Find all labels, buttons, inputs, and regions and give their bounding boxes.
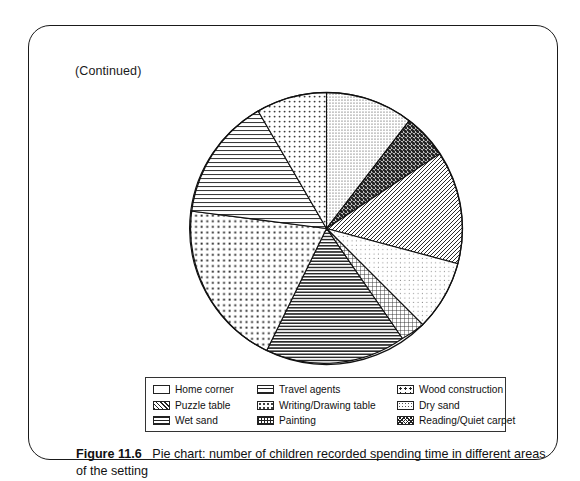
legend-swatch-wood-construction-icon bbox=[397, 385, 414, 394]
legend-label-painting: Painting bbox=[279, 415, 316, 426]
legend-swatch-travel-agents-icon bbox=[257, 385, 274, 394]
legend-label-wood-construction: Wood construction bbox=[419, 384, 503, 395]
legend-grid: Home corner Travel agents Wood construct… bbox=[153, 382, 499, 429]
legend-item-dry-sand: Dry sand bbox=[397, 400, 515, 411]
legend-item-reading-quiet-carpet: Reading/Quiet carpet bbox=[397, 415, 515, 426]
figure-caption-gap bbox=[142, 447, 153, 461]
legend-swatch-puzzle-table-icon bbox=[153, 401, 170, 410]
legend-swatch-wet-sand-icon bbox=[153, 416, 170, 425]
legend-swatch-writing-drawing-table-icon bbox=[257, 401, 274, 410]
legend-item-puzzle-table: Puzzle table bbox=[153, 400, 257, 411]
legend-item-home-corner: Home corner bbox=[153, 384, 257, 395]
pie-chart bbox=[188, 90, 465, 367]
legend-label-wet-sand: Wet sand bbox=[175, 415, 218, 426]
legend-label-writing-drawing-table: Writing/Drawing table bbox=[279, 400, 376, 411]
legend-swatch-reading-quiet-carpet-icon bbox=[397, 416, 414, 425]
legend-label-reading-quiet-carpet: Reading/Quiet carpet bbox=[419, 415, 515, 426]
chart-legend: Home corner Travel agents Wood construct… bbox=[145, 377, 506, 432]
legend-label-puzzle-table: Puzzle table bbox=[175, 400, 231, 411]
legend-label-travel-agents: Travel agents bbox=[279, 384, 340, 395]
pie-chart-svg bbox=[188, 90, 465, 367]
legend-swatch-painting-icon bbox=[257, 416, 274, 425]
legend-swatch-dry-sand-icon bbox=[397, 401, 414, 410]
legend-item-writing-drawing-table: Writing/Drawing table bbox=[257, 400, 397, 411]
legend-label-home-corner: Home corner bbox=[175, 384, 234, 395]
legend-item-wood-construction: Wood construction bbox=[397, 384, 515, 395]
legend-label-dry-sand: Dry sand bbox=[419, 400, 460, 411]
continued-label: (Continued) bbox=[75, 64, 141, 78]
figure-caption-label: Figure 11.6 bbox=[76, 447, 142, 461]
figure-page-frame: (Continued) bbox=[28, 25, 558, 460]
legend-swatch-home-corner-icon bbox=[153, 385, 170, 394]
figure-caption: Figure 11.6 Pie chart: number of childre… bbox=[76, 446, 546, 480]
legend-item-painting: Painting bbox=[257, 415, 397, 426]
legend-item-travel-agents: Travel agents bbox=[257, 384, 397, 395]
legend-item-wet-sand: Wet sand bbox=[153, 415, 257, 426]
